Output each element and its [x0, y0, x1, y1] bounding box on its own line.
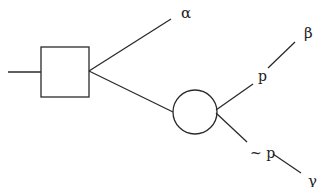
- edge-not-p-upper: [216, 113, 247, 142]
- edge-not-p-lower: [273, 154, 301, 173]
- edge-p-lower: [216, 84, 253, 110]
- outcome-alpha-label: α: [181, 4, 191, 22]
- decision-node-square: [41, 47, 89, 97]
- edge-to-alpha: [89, 19, 171, 71]
- branch-p-label: p: [258, 68, 267, 84]
- outcome-gamma-label: γ: [308, 172, 317, 187]
- edge-to-chance-node: [89, 71, 173, 112]
- decision-tree-diagram: α β γ p ~ p: [0, 0, 322, 187]
- outcome-beta-label: β: [304, 24, 313, 42]
- branch-not-p-label: ~ p: [250, 145, 275, 161]
- edge-p-upper: [268, 42, 295, 68]
- chance-node-circle: [173, 90, 217, 134]
